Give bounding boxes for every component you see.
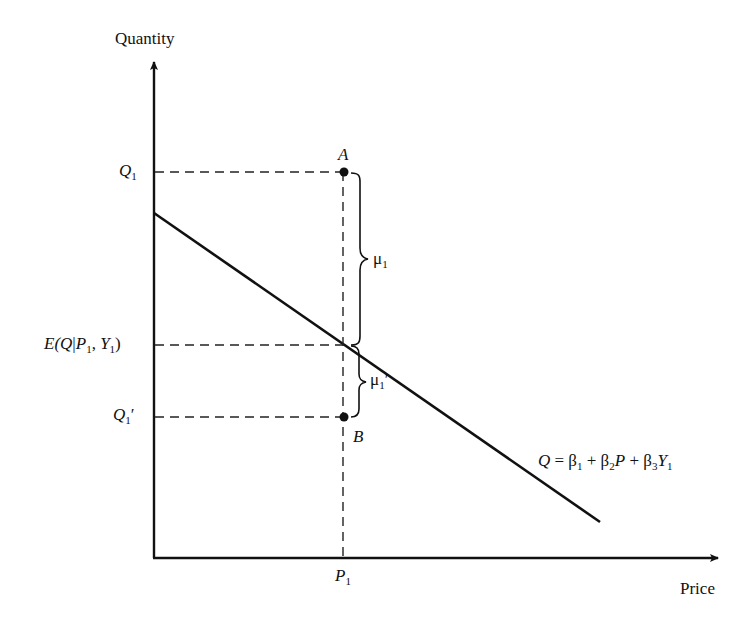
e-y: Y — [100, 334, 109, 353]
tick-q1prime: Q1′ — [113, 406, 135, 423]
tick-q1prime-prime: ′ — [131, 405, 135, 424]
tick-q1: Q1 — [119, 162, 137, 179]
e-p: P — [76, 334, 86, 353]
mu1prime-label: μ1′ — [370, 371, 388, 388]
mu1-sub: 1 — [382, 258, 388, 270]
e-q: Q — [60, 334, 72, 353]
mu1-label: μ1 — [373, 250, 388, 267]
e-post: ) — [115, 334, 121, 353]
tick-p1-sub: 1 — [345, 575, 351, 587]
tick-q1-sub: 1 — [131, 170, 137, 182]
tick-q1prime-main: Q — [113, 405, 125, 424]
mu1prime-main: μ — [370, 370, 379, 389]
e-comma: , — [92, 334, 101, 353]
point-b-label: B — [353, 428, 363, 445]
x-axis-label: Price — [680, 580, 715, 597]
point-a — [340, 168, 349, 177]
eq-ysub: 1 — [667, 460, 673, 472]
y-axis-label: Quantity — [115, 30, 175, 47]
brace-mu1 — [351, 173, 368, 345]
eq-y: Y — [657, 451, 666, 470]
regression-equation: Q = β1 + β2P + β3Y1 — [538, 452, 672, 469]
eq-plus1: + β — [583, 451, 610, 470]
tick-q1-main: Q — [119, 161, 131, 180]
point-b — [340, 413, 349, 422]
mu1prime-prime: ′ — [385, 370, 389, 389]
point-a-label: A — [338, 146, 348, 163]
tick-expected-q: E(Q|P1, Y1) — [44, 335, 121, 352]
mu1-main: μ — [373, 249, 382, 268]
eq-q: Q — [538, 451, 550, 470]
eq-eq: = β — [550, 451, 577, 470]
e-pre: E( — [44, 334, 60, 353]
eq-plus2: + β — [625, 451, 652, 470]
tick-p1-main: P — [335, 566, 345, 585]
diagram-canvas — [0, 0, 745, 617]
brace-mu1prime — [351, 346, 366, 417]
eq-p: P — [615, 451, 625, 470]
tick-p1: P1 — [335, 567, 351, 584]
